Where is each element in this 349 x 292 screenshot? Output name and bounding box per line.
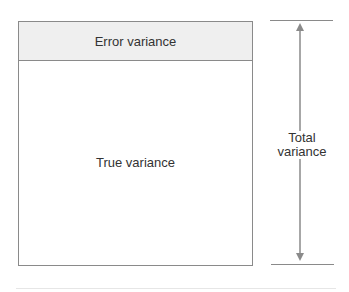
total-label-line2: variance xyxy=(270,145,334,159)
total-variance-label: Total variance xyxy=(270,131,334,159)
total-label-line1: Total xyxy=(270,131,334,145)
footer-divider xyxy=(16,288,336,289)
